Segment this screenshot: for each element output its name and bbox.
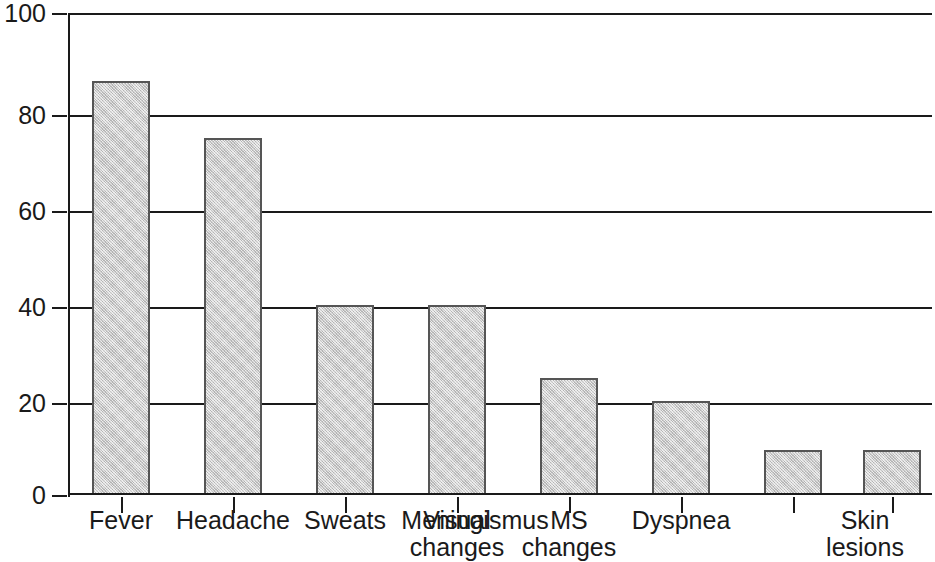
bar-visual-changes bbox=[540, 378, 598, 495]
x-label-line1: Visual bbox=[423, 506, 491, 534]
x-axis-baseline bbox=[68, 493, 932, 495]
y-tick-label: 80 bbox=[18, 103, 46, 128]
gridline-40 bbox=[68, 307, 932, 309]
y-tick-mark bbox=[52, 13, 67, 15]
y-axis-labels: 100 80 60 40 20 0 bbox=[0, 0, 46, 562]
x-label-line1: Sweats bbox=[304, 506, 386, 534]
y-tick-label: 0 bbox=[32, 483, 46, 508]
bar-sweats bbox=[316, 305, 374, 495]
x-label-line2: changes bbox=[499, 534, 639, 561]
bar-skin-lesions bbox=[863, 450, 921, 495]
gridline-60 bbox=[68, 211, 932, 213]
x-label-line1: Skin bbox=[841, 506, 890, 534]
x-label-dyspnea: Dyspnea bbox=[611, 507, 751, 534]
bar-ms-changes bbox=[652, 401, 710, 495]
bar-chart: 100 80 60 40 20 0 Fever bbox=[0, 0, 935, 562]
x-label-skin-lesions: Skin lesions bbox=[795, 507, 935, 561]
bar-dyspnea bbox=[764, 450, 822, 495]
y-tick-label: 20 bbox=[18, 391, 46, 416]
x-label-line1: MS bbox=[550, 506, 588, 534]
y-tick-label: 60 bbox=[18, 199, 46, 224]
y-tick-label: 100 bbox=[4, 1, 46, 26]
y-tick-label: 40 bbox=[18, 295, 46, 320]
x-label-line1: Dyspnea bbox=[632, 506, 731, 534]
y-tick-mark bbox=[52, 115, 67, 117]
bar-headache bbox=[204, 138, 262, 495]
x-label-line1: Fever bbox=[89, 506, 153, 534]
x-label-line1: Headache bbox=[176, 506, 290, 534]
y-tick-mark bbox=[52, 495, 67, 497]
bar-meningismus bbox=[428, 305, 486, 495]
y-tick-mark bbox=[52, 403, 67, 405]
bar-fever bbox=[92, 81, 150, 495]
gridline-80 bbox=[68, 115, 932, 117]
y-tick-mark bbox=[52, 307, 67, 309]
y-tick-mark bbox=[52, 211, 67, 213]
plot-area bbox=[68, 13, 932, 495]
gridline-100 bbox=[68, 13, 932, 15]
x-label-line2: lesions bbox=[795, 534, 935, 561]
gridline-20 bbox=[68, 403, 932, 405]
